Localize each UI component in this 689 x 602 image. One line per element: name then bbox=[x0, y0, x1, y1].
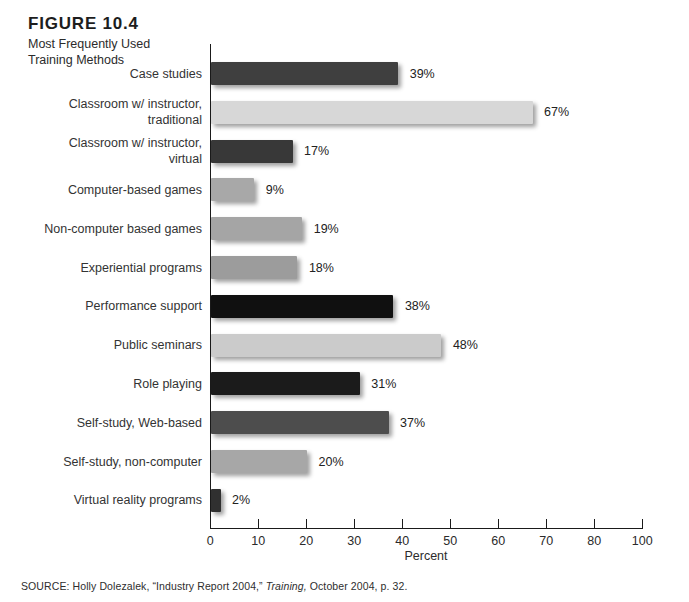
bar-segment bbox=[211, 178, 254, 201]
bar-value-label: 38% bbox=[405, 299, 430, 313]
bar-value-label: 2% bbox=[232, 493, 250, 507]
category-label: Performance support bbox=[14, 298, 202, 314]
bar-segment bbox=[211, 295, 393, 318]
category-label: Classroom w/ instructor, traditional bbox=[14, 96, 202, 128]
category-label: Case studies bbox=[14, 66, 202, 82]
bar-segment bbox=[211, 101, 533, 124]
x-axis-title: Percent bbox=[210, 549, 642, 563]
bar-chart: Percent 01020304050607080100Case studies… bbox=[0, 0, 689, 602]
bar-segment bbox=[211, 256, 297, 279]
x-axis-tick bbox=[450, 519, 452, 528]
bar-segment bbox=[211, 450, 307, 473]
bar-value-label: 19% bbox=[314, 222, 339, 236]
category-label: Public seminars bbox=[14, 337, 202, 353]
bar-segment bbox=[211, 411, 389, 434]
bar-value-label: 9% bbox=[266, 183, 284, 197]
x-axis-tick bbox=[210, 519, 212, 528]
bar-value-label: 48% bbox=[453, 338, 478, 352]
x-axis-tick bbox=[498, 519, 500, 528]
source-suffix: October 2004, p. 32. bbox=[307, 580, 408, 592]
x-axis-tick-label: 10 bbox=[251, 534, 265, 548]
category-label: Experiential programs bbox=[14, 260, 202, 276]
x-axis-tick-label: 50 bbox=[443, 534, 457, 548]
x-axis-tick-label: 40 bbox=[395, 534, 409, 548]
category-label: Classroom w/ instructor, virtual bbox=[14, 135, 202, 167]
category-label: Self-study, non-computer bbox=[14, 454, 202, 470]
x-axis-tick-label: 100 bbox=[632, 534, 653, 548]
x-axis-tick-label: 70 bbox=[539, 534, 553, 548]
x-axis-tick bbox=[258, 519, 260, 528]
book-figure-page: FIGURE 10.4 Most Frequently Used Trainin… bbox=[0, 0, 689, 602]
bar-segment bbox=[211, 62, 398, 85]
source-journal: Training, bbox=[266, 580, 307, 592]
category-label: Computer-based games bbox=[14, 182, 202, 198]
x-axis-tick-label: 60 bbox=[491, 534, 505, 548]
x-axis-tick bbox=[546, 519, 548, 528]
x-axis-tick bbox=[642, 519, 644, 528]
x-axis-tick bbox=[594, 519, 596, 528]
bar-value-label: 20% bbox=[319, 455, 344, 469]
x-axis-tick bbox=[354, 519, 356, 528]
category-label: Non-computer based games bbox=[14, 221, 202, 237]
category-label: Virtual reality programs bbox=[14, 492, 202, 508]
bar-segment bbox=[211, 334, 441, 357]
bar-segment bbox=[211, 489, 221, 512]
bar-segment bbox=[211, 140, 293, 163]
x-axis-tick-label: 30 bbox=[347, 534, 361, 548]
bar-value-label: 39% bbox=[410, 67, 435, 81]
bar-segment bbox=[211, 217, 302, 240]
x-axis-line bbox=[210, 528, 644, 530]
x-axis-tick-label: 80 bbox=[587, 534, 601, 548]
source-prefix: SOURCE: Holly Dolezalek, “Industry Repor… bbox=[21, 580, 266, 592]
category-label: Role playing bbox=[14, 376, 202, 392]
bar-value-label: 67% bbox=[544, 105, 569, 119]
x-axis-tick-label: 0 bbox=[207, 534, 214, 548]
x-axis-tick bbox=[306, 519, 308, 528]
bar-value-label: 31% bbox=[371, 377, 396, 391]
x-axis-tick bbox=[402, 519, 404, 528]
bar-value-label: 17% bbox=[304, 144, 329, 158]
category-label: Self-study, Web-based bbox=[14, 415, 202, 431]
bar-value-label: 37% bbox=[400, 416, 425, 430]
bar-value-label: 18% bbox=[309, 261, 334, 275]
bar-segment bbox=[211, 372, 360, 395]
source-citation: SOURCE: Holly Dolezalek, “Industry Repor… bbox=[21, 580, 407, 592]
x-axis-tick-label: 20 bbox=[299, 534, 313, 548]
